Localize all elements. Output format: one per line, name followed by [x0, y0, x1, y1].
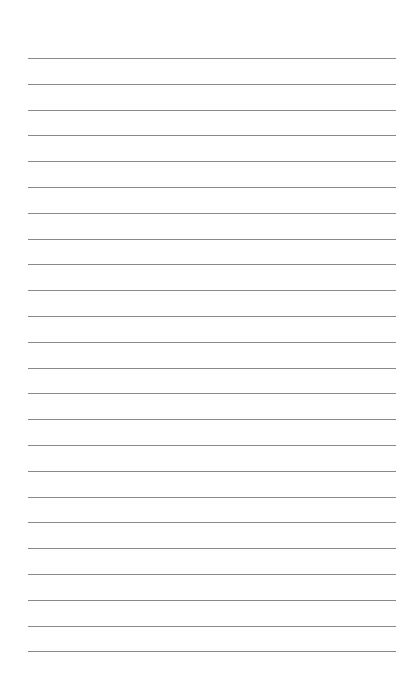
ruled-line — [28, 58, 396, 59]
ruled-line — [28, 548, 396, 549]
ruled-line — [28, 574, 396, 575]
ruled-line — [28, 110, 396, 111]
ruled-line — [28, 626, 396, 627]
ruled-line — [28, 393, 396, 394]
ruled-line — [28, 522, 396, 523]
ruled-line — [28, 368, 396, 369]
ruled-line — [28, 84, 396, 85]
ruled-line — [28, 213, 396, 214]
ruled-line — [28, 497, 396, 498]
ruled-line — [28, 264, 396, 265]
ruled-line — [28, 135, 396, 136]
ruled-line — [28, 316, 396, 317]
ruled-line — [28, 445, 396, 446]
ruled-line — [28, 161, 396, 162]
ruled-line — [28, 600, 396, 601]
ruled-line — [28, 419, 396, 420]
ruled-line — [28, 651, 396, 652]
ruled-line — [28, 342, 396, 343]
ruled-line — [28, 290, 396, 291]
ruled-line — [28, 471, 396, 472]
ruled-line — [28, 187, 396, 188]
ruled-line — [28, 239, 396, 240]
